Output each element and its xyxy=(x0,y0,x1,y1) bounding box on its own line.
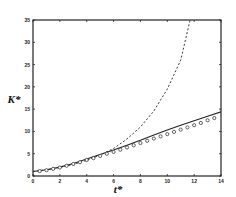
y-tick-label: 15 xyxy=(24,106,30,112)
data-marker xyxy=(52,167,55,170)
data-marker xyxy=(213,116,216,119)
line-chart: 0246810121405101520253035 t* K* xyxy=(0,0,236,197)
data-marker xyxy=(172,130,175,133)
data-marker xyxy=(65,164,68,167)
data-marker xyxy=(125,146,128,149)
data-marker xyxy=(85,158,88,161)
axes: 0246810121405101520253035 xyxy=(24,17,224,184)
data-marker xyxy=(78,161,81,164)
x-axis-label: t* xyxy=(114,183,123,195)
data-marker xyxy=(193,124,196,127)
data-marker xyxy=(132,144,135,147)
data-marker xyxy=(58,166,61,169)
y-tick-label: 35 xyxy=(24,17,30,23)
data-marker xyxy=(112,150,115,153)
x-tick-label: 8 xyxy=(139,178,142,184)
data-marker xyxy=(99,154,102,157)
data-marker xyxy=(166,133,169,136)
y-tick-label: 30 xyxy=(24,39,30,45)
data-marker xyxy=(45,169,48,172)
x-tick-label: 2 xyxy=(58,178,61,184)
data-marker xyxy=(159,135,162,138)
solid-line xyxy=(33,112,221,172)
plot-frame xyxy=(33,20,221,176)
y-tick-label: 25 xyxy=(24,62,30,68)
data-marker xyxy=(38,169,41,172)
dashed-line xyxy=(33,20,190,172)
x-tick-label: 4 xyxy=(85,178,88,184)
data-marker xyxy=(105,152,108,155)
data-marker xyxy=(72,162,75,165)
y-axis-label: K* xyxy=(7,93,21,105)
data-marker xyxy=(186,126,189,129)
y-tick-label: 0 xyxy=(27,173,30,179)
data-marker xyxy=(199,121,202,124)
data-marker xyxy=(119,148,122,151)
y-tick-label: 10 xyxy=(24,128,30,134)
plot-area xyxy=(33,20,221,173)
data-marker xyxy=(92,157,95,160)
x-tick-label: 0 xyxy=(32,178,35,184)
y-tick-label: 20 xyxy=(24,84,30,90)
data-marker xyxy=(152,137,155,140)
x-tick-label: 12 xyxy=(191,178,197,184)
x-tick-label: 14 xyxy=(218,178,224,184)
data-marker xyxy=(179,128,182,131)
x-tick-label: 10 xyxy=(165,178,171,184)
data-marker xyxy=(146,139,149,142)
data-marker xyxy=(139,141,142,144)
y-tick-label: 5 xyxy=(27,151,30,157)
data-marker xyxy=(206,119,209,122)
